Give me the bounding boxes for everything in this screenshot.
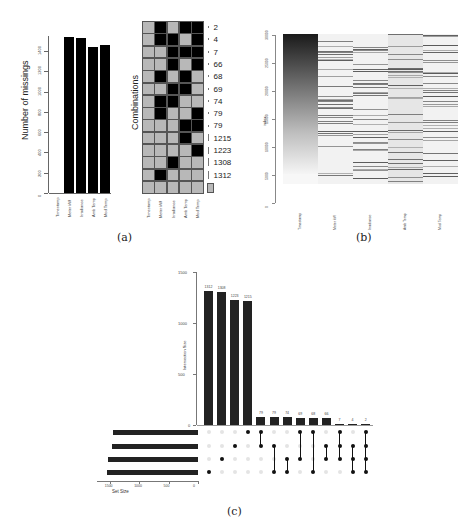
- combo-count-label: 1223: [214, 146, 232, 155]
- combo-cell: [191, 181, 204, 194]
- set-size-bar: [108, 457, 198, 462]
- matrix-dot-empty: [220, 444, 224, 448]
- missing-stripe: [318, 57, 353, 58]
- missing-stripe: [423, 125, 458, 126]
- missing-stripe: [353, 115, 388, 116]
- x-tick-label: Amb Temp: [91, 198, 96, 217]
- matrix-connector: [326, 446, 327, 459]
- intersection-bar: [204, 291, 213, 425]
- missing-stripe: [423, 106, 458, 107]
- missing-stripe: [423, 137, 458, 138]
- intersection-tick-label: 0: [188, 423, 190, 428]
- missing-stripe: [318, 41, 353, 42]
- combo-cell: [142, 58, 155, 71]
- matrix-dot-filled: [233, 444, 237, 448]
- matrix-dot-empty: [246, 444, 250, 448]
- combo-cell: [167, 83, 180, 96]
- combo-x-label: Meter kW: [158, 201, 163, 218]
- combo-proportion-bar: [208, 38, 209, 40]
- missing-stripe: [353, 134, 388, 135]
- y-tick: [44, 92, 48, 93]
- combo-cell: [191, 21, 204, 34]
- y-tick: [44, 51, 48, 52]
- y-tick-label: 1000: [37, 87, 42, 96]
- missing-stripe: [423, 50, 458, 51]
- set-size-bar: [113, 430, 198, 435]
- combo-proportion-bar: [208, 26, 209, 28]
- missing-stripe: [318, 76, 353, 77]
- combo-cell: [191, 58, 204, 71]
- missing-stripe: [353, 84, 388, 85]
- combo-cell: [167, 21, 180, 34]
- y-tick: [44, 71, 48, 72]
- combo-count-label: 7: [214, 48, 218, 57]
- index-tick: [272, 203, 275, 204]
- combo-proportion-bar: [208, 147, 209, 154]
- index-tick-label: 0: [265, 206, 269, 208]
- heatmap-x-label: Mod Temp: [438, 214, 442, 230]
- x-tick-label: Timestamp: [55, 197, 60, 217]
- missing-stripe: [353, 178, 388, 179]
- missing-stripe: [353, 143, 388, 144]
- missing-stripe: [353, 71, 388, 72]
- matrix-connector: [365, 432, 366, 472]
- intersection-tick-label: 500: [178, 372, 185, 377]
- missing-stripe: [353, 137, 388, 138]
- bar-meter-kw: [64, 37, 74, 193]
- missing-stripe: [318, 146, 353, 147]
- missing-stripe: [318, 175, 353, 176]
- matrix-dot-empty: [246, 470, 250, 474]
- set-size-tick-label: 500: [164, 484, 170, 488]
- combo-cell: [154, 33, 167, 46]
- index-tick-label: 25000: [265, 58, 269, 68]
- missing-stripe: [423, 131, 458, 132]
- missing-stripe: [353, 93, 388, 94]
- combo-cell: [167, 119, 180, 132]
- combo-cell: [191, 156, 204, 169]
- intersection-value-label: 69: [296, 412, 305, 416]
- combo-proportion-bar: [208, 134, 209, 141]
- combo-proportion-bar: [208, 112, 209, 114]
- combo-count-label: 4: [214, 35, 218, 44]
- y-tick: [44, 112, 48, 113]
- combo-x-label: Amb Temp: [183, 199, 188, 218]
- caption-b: (b): [356, 231, 372, 244]
- missing-stripe: [423, 140, 458, 141]
- missing-stripe: [353, 69, 388, 70]
- combo-cell: [179, 58, 192, 71]
- combo-cell: [154, 95, 167, 108]
- missing-stripe: [353, 52, 388, 53]
- missing-stripe: [318, 117, 353, 118]
- set-size-tick: [198, 481, 199, 484]
- set-size-tick-label: 1000: [134, 484, 142, 488]
- missing-stripe: [388, 181, 423, 182]
- heatmap-x-label: Amb Temp: [403, 213, 407, 230]
- index-tick-label: 15000: [265, 114, 269, 124]
- intersection-value-label: 74: [283, 411, 292, 415]
- combo-cell: [142, 132, 155, 145]
- index-tick-label: 20000: [265, 86, 269, 96]
- intersection-tick: [193, 425, 196, 426]
- heatmap-x-label: Timestamp: [298, 213, 302, 230]
- combo-proportion-bar: [208, 100, 209, 102]
- missing-stripe: [423, 88, 458, 89]
- missing-stripe: [353, 109, 388, 110]
- heatmap-x-label: Irradiance: [368, 214, 372, 230]
- missing-stripe: [423, 96, 458, 97]
- bar-amb-temp: [88, 47, 98, 193]
- missing-stripe: [423, 72, 458, 73]
- combo-cell: [142, 144, 155, 157]
- missing-stripe: [318, 60, 353, 61]
- combo-cell: [179, 132, 192, 145]
- combo-cell: [179, 70, 192, 83]
- combo-count-label: 69: [214, 85, 223, 94]
- intersection-tick: [193, 272, 196, 273]
- matrix-connector: [260, 432, 261, 446]
- missing-stripe: [388, 46, 423, 47]
- intersection-value-label: 4: [348, 418, 357, 422]
- intersection-tick: [193, 374, 196, 375]
- missing-stripe: [388, 75, 423, 76]
- missing-stripe: [388, 54, 423, 55]
- missing-stripe: [423, 176, 458, 177]
- combo-cell: [154, 132, 167, 145]
